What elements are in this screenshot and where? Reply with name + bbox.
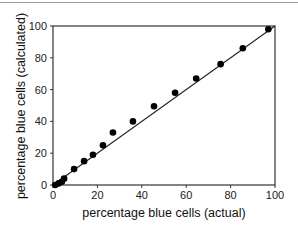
y-tick-label: 80 xyxy=(35,52,47,64)
x-tick-label: 100 xyxy=(266,189,284,201)
y-tick-label: 100 xyxy=(29,20,47,32)
data-point xyxy=(71,166,78,173)
y-axis-title: percentage blue cells (calculated) xyxy=(14,13,28,199)
x-tick-label: 20 xyxy=(91,189,103,201)
x-tick-label: 80 xyxy=(224,189,236,201)
y-tick-label: 60 xyxy=(35,84,47,96)
data-point xyxy=(151,103,158,110)
data-point xyxy=(172,89,179,96)
data-point xyxy=(217,61,224,68)
data-point xyxy=(130,118,137,125)
data-point xyxy=(110,129,117,136)
y-tick-label: 20 xyxy=(35,147,47,159)
data-point xyxy=(81,158,88,165)
scatter-chart: 020406080100020406080100 percentage blue… xyxy=(0,0,298,228)
data-point xyxy=(90,151,97,158)
y-tick-label: 40 xyxy=(35,115,47,127)
data-point xyxy=(100,142,107,149)
data-point xyxy=(240,45,247,52)
x-axis-title: percentage blue cells (actual) xyxy=(82,206,245,220)
data-point xyxy=(265,26,272,33)
data-point xyxy=(61,175,68,182)
x-tick-label: 60 xyxy=(180,189,192,201)
data-point xyxy=(193,75,200,82)
x-tick-label: 0 xyxy=(50,189,56,201)
y-tick-label: 0 xyxy=(41,179,47,191)
x-tick-label: 40 xyxy=(136,189,148,201)
